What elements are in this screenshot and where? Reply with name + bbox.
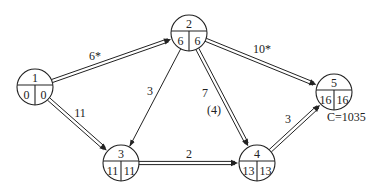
node-id: 3 bbox=[118, 147, 124, 161]
edge-duration-label: 7 bbox=[202, 86, 208, 100]
edge-extra-label: (4) bbox=[207, 103, 221, 117]
node-1: 100 bbox=[17, 69, 53, 105]
network-diagram: 100266311114131351616 6*1137(4)10*23C=10… bbox=[0, 0, 388, 193]
edge-line bbox=[53, 42, 169, 83]
node-id: 5 bbox=[331, 76, 337, 90]
node-late-time: 0 bbox=[41, 88, 47, 102]
edge-line bbox=[51, 39, 167, 80]
node-early-time: 6 bbox=[178, 34, 184, 48]
node-3: 31111 bbox=[103, 145, 139, 181]
edge-line bbox=[269, 106, 317, 150]
node-id: 1 bbox=[32, 71, 38, 85]
edge-4-5 bbox=[269, 105, 320, 152]
edge-duration-label: 11 bbox=[74, 106, 86, 120]
node-early-time: 16 bbox=[320, 93, 332, 107]
edge-duration-label: 10* bbox=[253, 42, 271, 56]
node-late-time: 13 bbox=[260, 164, 272, 178]
edge-duration-label: 3 bbox=[285, 112, 291, 126]
node-5: 51616 bbox=[316, 74, 352, 110]
node-early-time: 13 bbox=[243, 164, 255, 178]
edge-2-3 bbox=[130, 49, 181, 146]
cost-label: C=1035 bbox=[327, 110, 366, 124]
edge-line bbox=[271, 108, 319, 152]
edge-duration-label: 3 bbox=[147, 84, 153, 98]
nodes-layer: 100266311114131351616 bbox=[17, 15, 352, 181]
node-early-time: 0 bbox=[24, 88, 30, 102]
edge-duration-label: 2 bbox=[186, 147, 192, 161]
node-late-time: 11 bbox=[124, 164, 136, 178]
node-id: 4 bbox=[254, 147, 260, 161]
edge-duration-label: 6* bbox=[89, 49, 101, 63]
node-early-time: 11 bbox=[107, 164, 119, 178]
node-late-time: 16 bbox=[337, 93, 349, 107]
node-4: 41313 bbox=[239, 145, 275, 181]
node-late-time: 6 bbox=[195, 34, 201, 48]
node-id: 2 bbox=[186, 17, 192, 31]
edge-1-2 bbox=[51, 39, 171, 83]
node-2: 266 bbox=[171, 15, 207, 51]
arrowhead-icon bbox=[231, 160, 238, 166]
edge-line bbox=[130, 49, 181, 146]
